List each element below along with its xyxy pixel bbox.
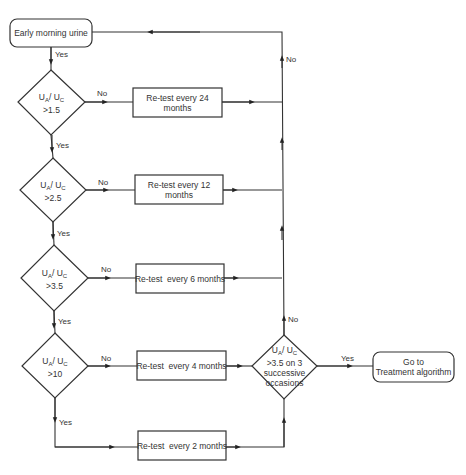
edge-label-yes-final: Yes [341,354,354,363]
edge-label-yes-d1: Yes [56,141,69,150]
edge-label-no-d4: No [101,354,111,363]
edge-label-no-d2: No [98,178,108,187]
threshold: >2.5 [45,193,62,203]
sub-a: A [46,185,50,191]
sub-b: C [293,350,297,356]
retest-label: Re-test every 6 months [135,274,225,284]
sub-b: C [61,185,65,191]
start-node-early-morning-urine: Early morning urine [10,19,92,47]
sub-b: C [60,97,64,103]
final-line-2: >3.5 on 3 [267,358,303,368]
start-label: Early morning urine [14,28,88,38]
edge-label-no-loop-top: No [286,55,296,64]
decision-ratio-3-5: UA/ UC>3.5 [21,264,88,294]
sub-b: C [63,361,67,367]
end-node-treatment-algorithm: Go toTreatment algorithm [373,352,454,382]
sub-a: A [48,361,52,367]
retest-6-months: Re-test every 6 months [136,264,224,293]
final-line-4: occasions [266,378,304,388]
sub-a: A [278,350,282,356]
threshold: >10 [48,369,62,379]
threshold: >1.5 [43,105,60,115]
sub-b: C [63,273,67,279]
final-line-3: successive [264,368,306,378]
threshold: >3.5 [46,281,63,291]
retest-label: Re-test every 24 months [133,93,222,113]
retest-label: Re-test every 2 months [137,441,227,451]
edge-label-no-d3: No [101,265,111,274]
retest-2-months: Re-test every 2 months [138,431,226,460]
edge-label-no-d1: No [97,89,107,98]
edge-label-yes-d2: Yes [57,229,70,238]
decision-ratio-2-5: UA/ UC>2.5 [20,176,86,206]
retest-4-months: Re-test every 4 months [137,351,226,380]
sub-a: A [45,97,49,103]
retest-12-months: Re-test every 12 months [135,175,223,204]
end-line-2: Treatment algorithm [376,367,452,377]
retest-24-months: Re-test every 24 months [133,88,222,117]
edge-label-yes-d4: Yes [59,418,72,427]
sub-a: A [48,273,52,279]
end-line-1: Go to [403,357,424,367]
edge-label-yes-start: Yes [55,50,68,59]
retest-label: Re-test every 12 months [135,180,223,200]
edge-label-yes-d3: Yes [58,317,71,326]
edge-label-no-final: No [288,315,298,324]
decision-ratio-10: UA/ UC>10 [22,352,88,382]
decision-ratio-1-5: UA/ UC>1.5 [18,88,85,118]
decision-successive-occasions: UA/ UC>3.5 on 3successiveoccasions [252,343,317,389]
retest-label: Re-test every 4 months [136,361,226,371]
